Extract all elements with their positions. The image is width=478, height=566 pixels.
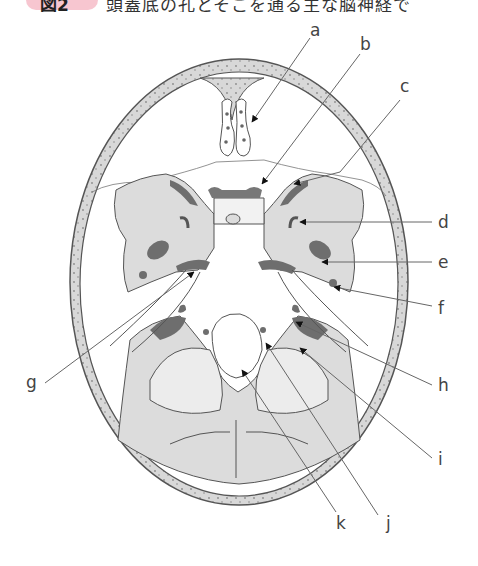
label-b: b (360, 34, 371, 54)
cranial-base-diagram: a b c d e f g h i j k (0, 0, 478, 566)
label-h: h (438, 375, 449, 395)
label-k: k (336, 513, 346, 533)
label-e: e (438, 252, 448, 272)
label-g: g (26, 372, 37, 392)
label-f: f (438, 298, 445, 318)
label-a: a (310, 20, 320, 40)
label-j: j (385, 513, 391, 533)
label-i: i (438, 449, 443, 469)
label-d: d (438, 212, 449, 232)
label-c: c (400, 76, 409, 96)
